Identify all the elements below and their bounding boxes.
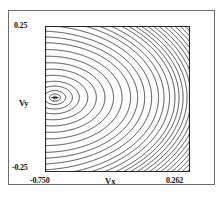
- caption-strip: [8, 196, 215, 209]
- axis-box: [46, 27, 190, 172]
- contour-lines: [45, 26, 190, 172]
- x-axis-title: Vx: [105, 176, 115, 186]
- x-axis-max-tick-label: 0.262: [166, 176, 183, 185]
- y-axis-max-tick-label: 0.25: [14, 21, 27, 30]
- plot-area: [45, 26, 190, 172]
- contour-svg: [45, 26, 190, 172]
- y-axis-title: Vy: [19, 98, 29, 108]
- y-axis-min-tick-label: -0.25: [12, 163, 28, 172]
- contour-plot-figure: 0.25 -0.25 -0.750 0.262 Vy Vx: [0, 0, 223, 209]
- x-axis-min-tick-label: -0.750: [30, 176, 49, 185]
